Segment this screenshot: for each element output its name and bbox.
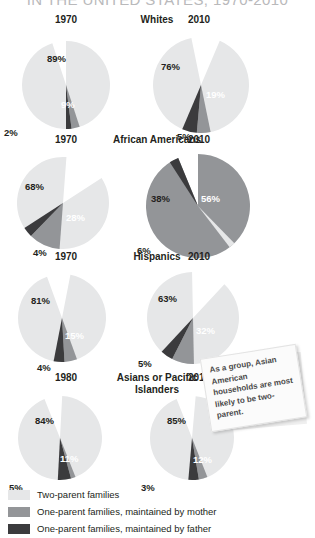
slice-label-mother: 56% [201,193,220,204]
legend-label-mother: One-parent families, maintained by mothe… [37,506,217,517]
legend-label-two-parent: Two-parent families [37,489,119,500]
year-label-left: 1970 [36,14,96,25]
year-label-right: 2010 [169,251,229,262]
slice-label-mother: 11% [60,453,79,464]
slice-mother [146,154,250,258]
year-label-left: 1970 [36,251,96,262]
pie-chart-african-americans-1970[interactable]: 68% 28% 4% [13,155,113,251]
slice-label-two-parent: 85% [167,415,186,426]
pie-chart-whites-2010[interactable]: 76% 19% 5% [149,35,253,135]
legend: Two-parent families One-parent families,… [8,487,248,538]
legend-item-two-parent: Two-parent families [8,487,248,502]
slice-label-mother: 12% [193,454,212,465]
pie-chart-hispanics-1970[interactable]: 81% 15% 4% [14,272,110,364]
legend-swatch-father [8,524,30,534]
pie-chart-whites-1970[interactable]: 89% 9% 2% [16,39,116,131]
slice-label-two-parent: 89% [47,53,66,64]
slice-label-two-parent: 81% [31,295,50,306]
slice-label-mother: 9% [61,99,75,110]
year-label-left: 1980 [36,372,96,383]
pie-chart-asians-1980[interactable]: 84% 11% 5% [14,394,106,482]
pie-chart-hispanics-2010[interactable]: 63% 32% 5% [143,270,243,366]
legend-swatch-two-parent [8,490,30,500]
slice-label-two-parent: 38% [151,193,170,204]
callout-note-text: As a group, Asian American households ar… [209,352,299,422]
year-label-left: 1970 [36,134,96,145]
slice-label-mother: 15% [65,330,84,341]
slice-label-two-parent: 68% [25,181,44,192]
slice-label-mother: 19% [206,89,225,100]
pie-chart-african-americans-2010[interactable]: 38% 56% 6% [142,152,254,260]
slice-label-mother: 32% [196,325,215,336]
slice-label-mother: 28% [66,212,85,223]
year-label-right: 2010 [169,134,229,145]
legend-item-father: One-parent families, maintained by fathe… [8,521,248,536]
page-title: IN THE UNITED STATES, 1970-2010 [0,0,315,8]
slice-label-two-parent: 76% [161,61,180,72]
year-label-right: 2010 [169,14,229,25]
legend-label-father: One-parent families, maintained by fathe… [37,523,211,534]
slice-label-two-parent: 84% [35,415,54,426]
legend-item-mother: One-parent families, maintained by mothe… [8,504,248,519]
legend-swatch-mother [8,507,30,517]
callout-note: As a group, Asian American households ar… [200,344,307,432]
slice-label-two-parent: 63% [158,293,177,304]
slice-label-father: 5% [138,358,152,369]
